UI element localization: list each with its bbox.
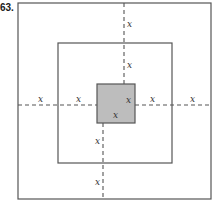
label-top-middle: x (127, 60, 132, 70)
label-right-outer: x (190, 94, 195, 104)
problem-number: 63. (0, 2, 14, 13)
label-top-outer: x (127, 19, 132, 29)
label-inner-right: x (126, 95, 131, 105)
label-left-outer: x (38, 94, 43, 104)
label-left-middle: x (76, 94, 81, 104)
label-inner-bottom: x (113, 110, 118, 120)
label-bottom-middle: x (95, 136, 100, 146)
label-bottom-outer: x (95, 177, 100, 187)
label-right-middle: x (150, 94, 155, 104)
nested-squares-diagram: x x x x x x x x x x (0, 0, 212, 210)
diagram-figure: 63. x x x x x x x x x x (0, 0, 212, 210)
